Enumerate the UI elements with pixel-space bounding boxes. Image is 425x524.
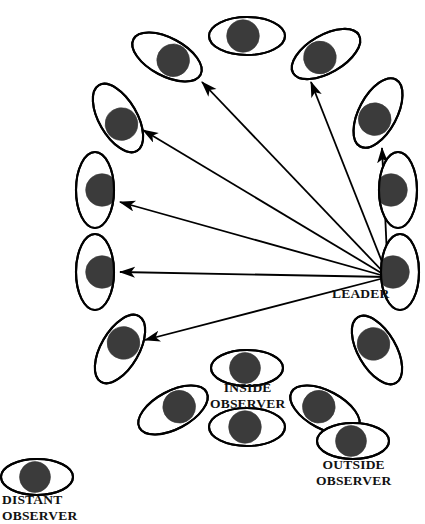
- gaze-arrow-to-left-lower-shaft: [120, 272, 388, 277]
- outside-observer-label-line1: OUTSIDE: [323, 457, 385, 472]
- ring-eye-right-upper: [375, 152, 417, 228]
- ring-eye-bottom-pupil: [229, 411, 262, 444]
- eye-ring-diagram: [0, 0, 425, 524]
- ring-eye-top-pupil: [227, 20, 260, 53]
- distant-observer-label-line1: DISTANT: [2, 492, 62, 507]
- ring-eye-lower-left-2: [85, 307, 156, 392]
- ring-eye-top: [209, 17, 285, 55]
- gaze-arrow-to-upper-left-2-shaft: [143, 130, 388, 277]
- ring-eye-bottom: [209, 408, 285, 446]
- ring-eye-lower-left-1: [131, 375, 216, 444]
- eye-layer: [1, 17, 419, 495]
- figure-canvas: LEADER INSIDEOBSERVER OUTSIDEOBSERVER DI…: [0, 0, 425, 524]
- distant-observer-eye: [1, 459, 73, 495]
- distant-observer-label-line2: OBSERVER: [2, 508, 77, 523]
- ring-eye-left-upper: [76, 152, 118, 228]
- distant-observer-eye-pupil: [20, 462, 51, 493]
- ring-eye-upper-right-2: [343, 71, 412, 156]
- gaze-arrow-to-left-upper: [120, 202, 388, 277]
- inside-observer-label: INSIDEOBSERVER: [210, 380, 285, 411]
- inside-observer-label-line1: INSIDE: [224, 380, 272, 395]
- ring-eye-upper-right-1: [284, 19, 369, 90]
- gaze-arrow-to-upper-left-2: [143, 130, 388, 277]
- inside-observer-label-line2: OBSERVER: [210, 396, 285, 411]
- ring-eye-upper-left-2: [83, 76, 154, 161]
- inside-observer-eye-pupil: [230, 353, 261, 384]
- gaze-arrow-to-left-lower: [120, 272, 388, 277]
- ring-eye-upper-left-1: [125, 22, 210, 91]
- outside-observer-eye-pupil: [336, 426, 367, 457]
- ring-eye-left-lower: [76, 234, 118, 310]
- outside-observer-eye: [317, 423, 389, 459]
- gaze-arrow-to-left-upper-shaft: [120, 202, 388, 277]
- ring-eye-lower-right-2: [342, 308, 413, 393]
- outside-observer-label-line2: OBSERVER: [316, 473, 391, 488]
- leader-label: LEADER: [332, 287, 389, 302]
- distant-observer-label: DISTANTOBSERVER: [2, 492, 77, 523]
- outside-observer-label: OUTSIDEOBSERVER: [316, 457, 391, 488]
